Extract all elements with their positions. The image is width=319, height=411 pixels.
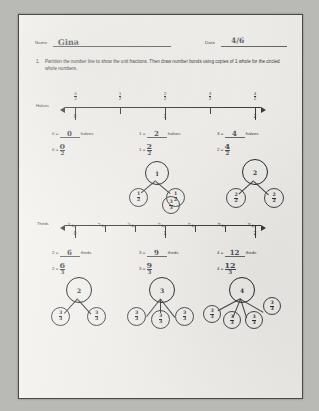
thirds-whole-2: 2 xyxy=(250,231,260,236)
statement-answer: 12 xyxy=(230,248,240,257)
bond-part-fraction: 3 3 xyxy=(230,315,233,325)
bond-part-fraction: 3 3 xyxy=(270,301,273,311)
equation-equals: = xyxy=(56,266,59,271)
thirds-left-arrow-icon xyxy=(60,225,65,231)
equation-numerator: 12 xyxy=(225,261,236,269)
bond-part-den: 3 xyxy=(230,321,233,326)
equation-denominator: 3 xyxy=(225,270,236,276)
equation-fraction: 9 3 xyxy=(147,261,153,276)
bond-part-num: 3 xyxy=(210,309,213,314)
thirds-whole-0: 0 xyxy=(70,231,80,236)
equation-fraction: 6 3 xyxy=(60,261,66,276)
bond-part-den: 3 xyxy=(210,315,213,320)
equation-denominator: 3 xyxy=(60,270,66,276)
bond-part-den: 3 xyxy=(159,320,162,325)
equation-fraction: 12 3 xyxy=(225,261,236,276)
bond-part: 3 3 xyxy=(223,311,241,329)
statement-equals: = xyxy=(56,250,59,255)
statement-unit: thirds xyxy=(81,250,92,255)
bond-part: 3 3 xyxy=(127,307,146,326)
bond-part-fraction: 3 3 xyxy=(210,309,213,319)
statement-answer: 9 xyxy=(154,248,159,257)
thirds-statement-2: 4 = 12 thirds xyxy=(217,247,256,257)
equation-numerator: 9 xyxy=(147,261,153,269)
equation-denominator: 3 xyxy=(147,270,153,276)
bond-part: 3 3 xyxy=(175,307,194,326)
thirds-whole-1: 1 xyxy=(160,231,170,236)
bond-part-fraction: 3 3 xyxy=(159,314,162,324)
statement-answer: 6 xyxy=(67,248,72,257)
bond-part: 3 3 xyxy=(87,307,106,326)
equation-left: 4 xyxy=(217,266,219,271)
bond-part-den: 3 xyxy=(252,321,255,326)
bond-part-fraction: 3 3 xyxy=(59,311,62,321)
bond-total-value: 2 xyxy=(77,287,81,294)
bond-part-num: 3 xyxy=(230,315,233,320)
thirds-right-arrow-icon xyxy=(261,225,266,231)
number-bond-thirds-3: 3 3 3 3 3 3 3 xyxy=(131,277,209,329)
thirds-equation-0: 2 = 6 3 xyxy=(52,261,65,276)
bond-part-fraction: 3 3 xyxy=(135,311,138,321)
bond-part-fraction: 3 3 xyxy=(95,311,98,321)
number-bond-thirds-4: 4 3 3 3 3 3 3 3 xyxy=(209,277,297,332)
bond-part: 3 3 xyxy=(51,307,70,326)
statement-whole: 3 xyxy=(139,250,141,255)
bond-part: 3 3 xyxy=(151,310,170,329)
statement-whole: 4 xyxy=(217,250,219,255)
bond-total-value: 4 xyxy=(240,287,244,294)
bond-part-num: 3 xyxy=(270,301,273,306)
thirds-fraction-label-1: 13 xyxy=(96,218,109,233)
bond-part: 3 3 xyxy=(203,305,221,323)
equation-numerator: 6 xyxy=(60,261,66,269)
equation-left: 2 xyxy=(52,266,54,271)
equation-equals: = xyxy=(221,266,224,271)
bond-total: 4 xyxy=(229,277,255,303)
bond-part-num: 3 xyxy=(252,315,255,320)
thirds-statement-1: 3 = 9 thirds xyxy=(139,247,178,257)
bond-total: 3 xyxy=(149,277,175,303)
equation-left: 3 xyxy=(139,266,141,271)
bond-part-den: 3 xyxy=(95,317,98,322)
bond-part: 3 3 xyxy=(263,297,281,315)
thirds-equation-2: 4 = 12 3 xyxy=(217,261,236,276)
statement-unit: thirds xyxy=(246,250,257,255)
thirds-circled-mark-1: 33 xyxy=(162,196,180,214)
thirds-fraction-label-2: 23 xyxy=(126,218,139,233)
statement-blank[interactable]: 6 xyxy=(60,247,80,257)
bond-part-den: 3 xyxy=(183,317,186,322)
thirds-number-line: Thirds 03 13 23 33 43 53 63 xyxy=(19,15,302,398)
thirds-row-label: Thirds xyxy=(37,221,49,226)
equation-equals: = xyxy=(143,266,146,271)
statement-blank[interactable]: 9 xyxy=(147,247,167,257)
bond-part-den: 3 xyxy=(270,307,273,312)
worksheet-page: Name Gina Date 4/6 1. Partition the numb… xyxy=(18,14,303,399)
thirds-equation-1: 3 = 9 3 xyxy=(139,261,152,276)
statement-whole: 2 xyxy=(52,250,54,255)
thirds-fraction-label-4: 43 xyxy=(186,218,199,233)
thirds-fraction-label-5: 53 xyxy=(216,218,229,233)
bond-total: 2 xyxy=(66,277,92,303)
bond-part: 3 3 xyxy=(245,311,263,329)
thirds-statement-0: 2 = 6 thirds xyxy=(52,247,91,257)
bond-part-fraction: 3 3 xyxy=(252,315,255,325)
statement-unit: thirds xyxy=(168,250,179,255)
statement-equals: = xyxy=(143,250,146,255)
number-bond-thirds-2: 2 3 3 3 3 xyxy=(51,277,121,329)
bond-part-den: 3 xyxy=(135,317,138,322)
statement-blank[interactable]: 12 xyxy=(225,247,245,257)
circled-fraction: 33 xyxy=(169,200,172,210)
statement-equals: = xyxy=(221,250,224,255)
bond-part-fraction: 3 3 xyxy=(183,311,186,321)
bond-total-value: 3 xyxy=(160,287,164,294)
bond-part-den: 3 xyxy=(59,317,62,322)
